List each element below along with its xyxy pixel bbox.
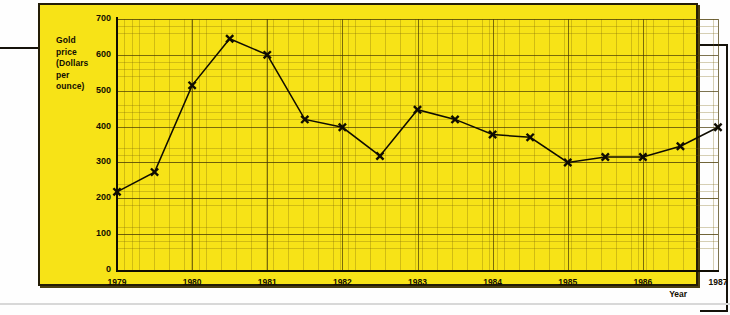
x-tick-label: 1982 bbox=[317, 277, 367, 287]
chart-figure: Gold price (Dollars per ounce) 010020030… bbox=[0, 0, 730, 315]
data-point-marker bbox=[226, 35, 233, 42]
x-tick-label: 1985 bbox=[543, 277, 593, 287]
x-tick-label: 1984 bbox=[468, 277, 518, 287]
data-point-marker bbox=[264, 51, 271, 58]
left-leader-line bbox=[0, 47, 40, 49]
y-tick-label: 0 bbox=[77, 264, 111, 274]
y-axis-label-line-4: per bbox=[56, 70, 102, 82]
gold-price-line-series bbox=[117, 19, 718, 270]
x-tick-label: 1980 bbox=[167, 277, 217, 287]
y-tick-label: 700 bbox=[77, 13, 111, 23]
y-axis-label-line-1: Gold bbox=[56, 35, 102, 47]
y-tick-label: 600 bbox=[77, 49, 111, 59]
y-axis-label-line-3: (Dollars bbox=[56, 58, 102, 70]
y-tick-label: 500 bbox=[77, 85, 111, 95]
data-point-marker bbox=[376, 152, 383, 159]
y-tick-label: 100 bbox=[77, 228, 111, 238]
y-tick-label: 400 bbox=[77, 121, 111, 131]
plot-area: 0100200300400500600700 19791980198119821… bbox=[117, 19, 718, 270]
x-tick-label: 1981 bbox=[242, 277, 292, 287]
x-axis-title: Year bbox=[669, 289, 687, 299]
bottom-divider bbox=[0, 303, 730, 305]
data-point-marker bbox=[151, 169, 158, 176]
data-point-marker bbox=[113, 188, 120, 195]
y-tick-label: 300 bbox=[77, 156, 111, 166]
gridline-vertical bbox=[718, 19, 719, 270]
chart-panel: Gold price (Dollars per ounce) 010020030… bbox=[38, 3, 698, 286]
series-line bbox=[117, 39, 718, 192]
y-tick-label: 200 bbox=[77, 192, 111, 202]
x-tick-label: 1987 bbox=[693, 277, 730, 287]
data-point-marker bbox=[189, 82, 196, 89]
x-tick-label: 1979 bbox=[92, 277, 142, 287]
x-tick-label: 1986 bbox=[618, 277, 668, 287]
x-tick-label: 1983 bbox=[393, 277, 443, 287]
x-axis-line bbox=[116, 270, 719, 272]
